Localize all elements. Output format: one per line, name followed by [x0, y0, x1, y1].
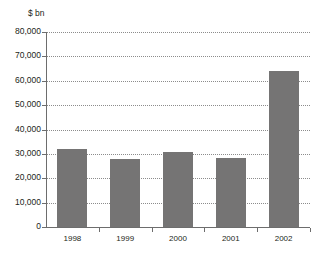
y-axis-tick [42, 154, 46, 155]
y-axis-tick-label: 80,000 [1, 27, 41, 36]
bar-2000 [163, 152, 193, 227]
bar-1999 [110, 159, 140, 227]
y-axis-tick [42, 130, 46, 131]
y-axis-tick-label: 70,000 [1, 51, 41, 60]
x-axis-tick [152, 228, 153, 232]
y-axis-tick [42, 178, 46, 179]
y-axis-tick [42, 81, 46, 82]
y-axis-tick-label: 10,000 [1, 198, 41, 207]
bar-1998 [57, 149, 87, 227]
x-axis-tick [310, 228, 311, 232]
x-axis-tick [204, 228, 205, 232]
bar-chart: $ bn 010,00020,00030,00040,00050,00060,0… [0, 0, 334, 255]
y-axis-tick-label: 50,000 [1, 100, 41, 109]
y-axis-tick [42, 32, 46, 33]
y-axis-line [46, 32, 47, 228]
x-axis-tick-label: 2002 [258, 234, 310, 244]
x-axis-tick [99, 228, 100, 232]
y-axis-tick-label: 40,000 [1, 125, 41, 134]
x-axis-tick-label: 1999 [99, 234, 151, 244]
plot-area [46, 32, 310, 227]
x-axis-line [46, 227, 310, 228]
x-axis-tick [257, 228, 258, 232]
y-axis-tick [42, 105, 46, 106]
y-axis-tick [42, 203, 46, 204]
x-axis-tick-label: 2001 [205, 234, 257, 244]
y-axis-tick-label: 30,000 [1, 149, 41, 158]
y-axis-tick-label: 20,000 [1, 173, 41, 182]
bar-2001 [216, 158, 246, 227]
gridline [46, 56, 310, 57]
x-axis-tick-label: 1998 [46, 234, 98, 244]
y-axis-tick-label: 0 [1, 222, 41, 231]
bar-2002 [269, 71, 299, 227]
y-axis-tick-label: 60,000 [1, 76, 41, 85]
x-axis-tick-label: 2000 [152, 234, 204, 244]
y-axis-tick [42, 227, 46, 228]
gridline [46, 32, 310, 33]
y-axis-tick [42, 56, 46, 57]
y-axis-tick-labels: 010,00020,00030,00040,00050,00060,00070,… [0, 0, 41, 255]
